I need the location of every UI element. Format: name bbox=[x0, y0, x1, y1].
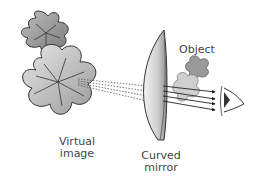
virtual-image-label-line2: image bbox=[52, 148, 102, 160]
eye-icon bbox=[221, 86, 245, 116]
curved-mirror-label-line2: mirror bbox=[136, 162, 186, 174]
object-label: Object bbox=[172, 44, 222, 56]
curved-mirror-label: Curved mirror bbox=[136, 150, 186, 174]
diagram-canvas: Object Virtual image Curved mirror bbox=[0, 0, 258, 182]
virtual-image-label: Virtual image bbox=[52, 136, 102, 160]
curved-mirror bbox=[144, 30, 167, 140]
object-flowers bbox=[173, 56, 209, 101]
